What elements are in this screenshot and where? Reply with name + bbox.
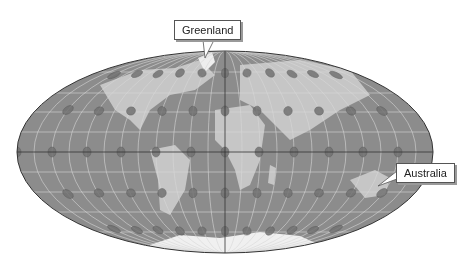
australia-callout: Australia bbox=[396, 163, 455, 183]
greenland-callout: Greenland bbox=[174, 20, 241, 40]
